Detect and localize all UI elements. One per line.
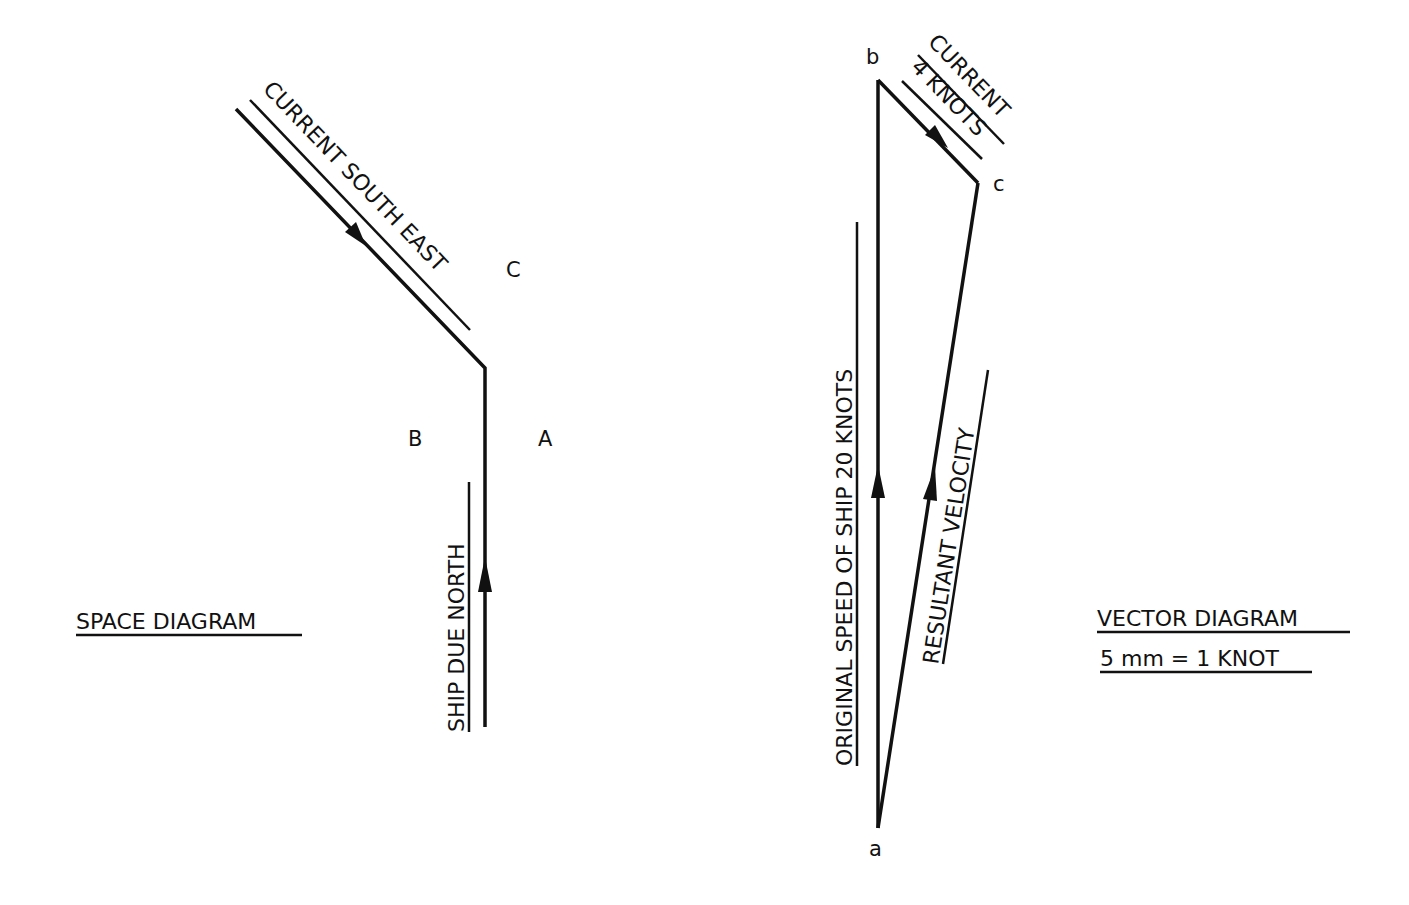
diagram-canvas: CURRENT SOUTH EAST SHIP DUE NORTH C B A … [0,0,1409,905]
space-diagram-title: SPACE DIAGRAM [76,609,256,634]
point-a: a [869,837,882,861]
point-C: C [506,258,521,282]
ship-label: SHIP DUE NORTH [444,543,469,732]
point-c: c [993,172,1005,196]
bc-arrow-icon [925,125,948,148]
ship-speed-label: ORIGINAL SPEED OF SHIP 20 KNOTS [832,369,857,766]
point-A: A [538,427,553,451]
vector-diagram-title: VECTOR DIAGRAM [1097,606,1298,631]
space-diagram: CURRENT SOUTH EAST SHIP DUE NORTH C B A … [76,76,553,732]
vector-diagram: b c a CURRENT 4 KNOTS ORIGINAL SPEED OF … [832,29,1350,861]
ship-vector-arrow-icon [871,465,885,498]
point-B: B [408,427,422,451]
resultant-arrow-icon [923,467,937,501]
ship-arrow-icon [478,557,492,592]
scale-label: 5 mm = 1 KNOT [1100,646,1279,671]
point-b: b [866,45,879,69]
current-label: CURRENT SOUTH EAST [258,76,452,277]
current-label-underline [250,100,470,330]
